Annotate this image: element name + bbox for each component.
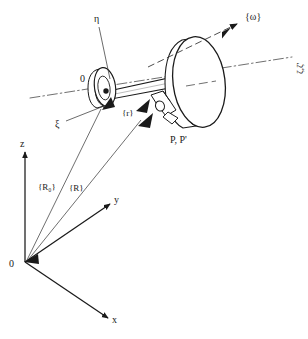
eta-axis-label: η (94, 14, 99, 24)
R-vector-label: {R} (69, 184, 84, 193)
body-origin-label: 0 (80, 74, 85, 84)
x-axis-label: x (112, 315, 117, 325)
zeta-axis-label: ζ,ζ' (296, 63, 305, 74)
R0-vector-label: {R₀} (38, 183, 56, 192)
y-axis-label: y (114, 195, 119, 205)
hub-disc (88, 66, 118, 108)
figure-drawing (0, 0, 308, 339)
kinematics-figure: η 0 {ω} ζ,ζ' ξ {r} P, P' z {R₀} {R} y 0 … (0, 0, 308, 339)
omega-vector-label: {ω} (245, 12, 261, 22)
xi-axis-label: ξ (55, 119, 59, 129)
r-vector-label: {r} (122, 109, 134, 118)
inertial-axes (24, 152, 110, 318)
contact-point-label: P, P' (170, 135, 187, 145)
inertial-origin-label: 0 (9, 259, 14, 269)
z-axis-label: z (20, 139, 24, 149)
